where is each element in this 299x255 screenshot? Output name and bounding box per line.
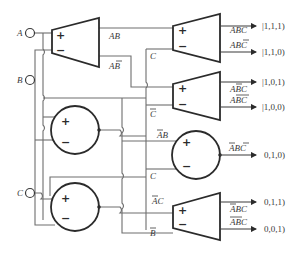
comparator-ab: + −	[52, 18, 99, 67]
plus-sign: +	[178, 204, 187, 217]
plus-sign: +	[61, 192, 70, 205]
output-state-7: 0,0,1)	[264, 224, 285, 234]
label-ab: AB	[108, 31, 120, 41]
input-c-label: C	[17, 188, 24, 198]
comparator-abc-4: + −	[173, 193, 220, 240]
plus-sign: +	[182, 136, 191, 149]
output-label-3: ABC	[229, 84, 248, 94]
output-state-3: |1,0,1)	[262, 77, 285, 87]
label-c1: C	[150, 51, 157, 61]
input-b-terminal[interactable]	[26, 76, 35, 85]
output-state-2: |1,1,0)	[262, 47, 285, 57]
minus-sign: −	[56, 44, 65, 57]
wire-circle2-out	[99, 207, 173, 213]
plus-sign: +	[61, 115, 70, 128]
wire-bus-146	[146, 49, 148, 230]
comparator-circle-abc: + −	[172, 131, 222, 179]
output-state-1: |1,1,1)	[262, 21, 285, 31]
output-state-6: 0,1,1)	[264, 197, 285, 207]
input-a-label: A	[16, 28, 23, 38]
quantum-comparator-circuit: A B C + − + − + − + − + − +	[0, 0, 299, 255]
wire-bus-122	[122, 98, 124, 225]
output-label-1: ABC	[229, 25, 248, 35]
plus-sign: +	[178, 24, 187, 37]
input-a-terminal[interactable]	[26, 29, 35, 38]
wire-bottom	[122, 225, 173, 233]
minus-sign: −	[61, 212, 70, 225]
output-state-4: |1,0,0)	[262, 102, 285, 112]
output-label-5: ABC	[228, 143, 247, 153]
output-label-7: ABC	[229, 217, 248, 227]
minus-sign: −	[178, 40, 187, 53]
wire-a-bus	[43, 33, 45, 220]
minus-sign: −	[182, 160, 191, 173]
output-state-5: 0,1,0)	[264, 150, 285, 160]
label-c2: C	[150, 109, 157, 119]
output-label-2: ABC	[229, 40, 248, 50]
input-b-label: B	[17, 75, 23, 85]
input-c-terminal[interactable]	[26, 189, 35, 198]
comparator-abc-2: + −	[173, 72, 220, 120]
comparator-circle-1: + −	[51, 106, 101, 154]
minus-sign: −	[178, 218, 187, 231]
comparator-abc-1: + −	[173, 14, 220, 62]
label-ab-bar: AB	[108, 61, 120, 71]
minus-sign: −	[61, 136, 70, 149]
label-c3: C	[150, 171, 157, 181]
plus-sign: +	[56, 29, 65, 42]
output-label-6: ABC	[229, 204, 248, 214]
label-abar-b: AB	[156, 130, 168, 140]
label-abar-c: AC	[151, 196, 164, 206]
minus-sign: −	[178, 98, 187, 111]
outputs: ABC |1,1,1) ABC |1,1,0) ABC |1,0,1) ABC …	[220, 21, 285, 234]
plus-sign: +	[178, 82, 187, 95]
input-terminals: A B C	[16, 28, 35, 198]
output-label-4: ABC	[229, 95, 248, 105]
label-b4: B	[150, 228, 156, 238]
comparator-circle-2: + −	[51, 183, 101, 231]
